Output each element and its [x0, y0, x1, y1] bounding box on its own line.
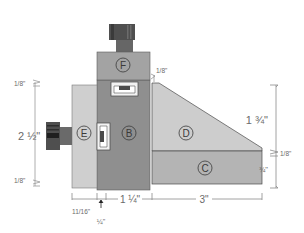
dim-bottom-cd: 3": [199, 194, 209, 205]
dim-left-bottom: 1/8": [14, 177, 26, 184]
top-knob: [109, 24, 135, 52]
svg-text:C: C: [201, 163, 208, 174]
svg-text:B: B: [126, 128, 133, 139]
dim-bottom-b: 1 ¼": [120, 194, 141, 205]
dim-right-middle: 1/8": [280, 150, 292, 157]
right-dimension: [270, 85, 278, 188]
left-knob: [46, 122, 72, 150]
top-f-dimension: [151, 74, 155, 82]
dim-bottom-gap: ¼": [97, 218, 106, 225]
svg-text:D: D: [182, 128, 189, 139]
dim-right-upper: 1 ¾": [246, 114, 268, 126]
bottom-dimension: [72, 193, 262, 208]
dim-right-lower: ¾": [259, 165, 268, 174]
jig-diagram: F E B D C 1/8" 2 ½" 1/8" 1/8" 1 ¾" 1/8" …: [0, 0, 304, 233]
dim-left-height: 2 ½": [18, 130, 40, 142]
top-clamp-icon: [111, 82, 138, 96]
dim-bottom-e: 11/16": [72, 208, 91, 215]
dim-left-top: 1/8": [14, 80, 26, 87]
svg-text:E: E: [81, 128, 88, 139]
dim-top-f: 1/8": [156, 67, 168, 74]
side-clamp-icon: [97, 123, 110, 150]
svg-text:F: F: [120, 60, 126, 71]
